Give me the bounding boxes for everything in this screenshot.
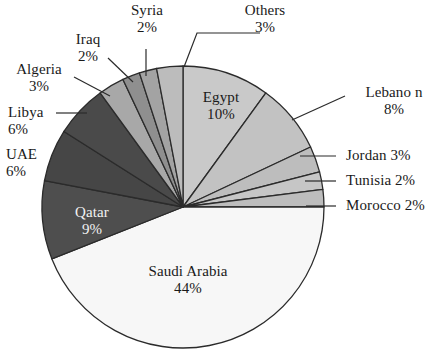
slice-label-lebanon-pct: 8% xyxy=(346,101,442,118)
slice-label-others: Others 3% xyxy=(226,2,304,36)
slice-label-egypt-pct: 10% xyxy=(186,106,256,123)
slice-label-uae: UAE 6% xyxy=(6,146,66,180)
slice-label-qatar: Qatar 9% xyxy=(56,204,128,238)
slice-label-lebanon-name: Lebano n xyxy=(365,84,422,100)
slice-label-jordan: Jordan 3% xyxy=(346,147,411,164)
slice-label-libya-name: Libya xyxy=(8,104,44,120)
slice-label-syria: Syria 2% xyxy=(112,2,182,36)
slice-label-qatar-name: Qatar xyxy=(75,204,109,220)
slice-label-libya-pct: 6% xyxy=(8,121,68,138)
slice-label-algeria: Algeria 3% xyxy=(6,61,72,95)
slice-label-egypt-name: Egypt xyxy=(203,89,239,105)
slice-label-uae-pct: 6% xyxy=(6,163,66,180)
slice-label-saudi-arabia-pct: 44% xyxy=(124,280,252,297)
slice-label-algeria-name: Algeria xyxy=(16,61,62,77)
leader-line-lebanon xyxy=(292,96,345,120)
slice-label-iraq: Iraq 2% xyxy=(62,31,114,65)
slice-label-saudi-arabia-name: Saudi Arabia xyxy=(148,263,227,279)
slice-label-iraq-name: Iraq xyxy=(76,31,101,47)
slice-label-morocco-name: Morocco 2% xyxy=(346,197,425,213)
slice-label-algeria-pct: 3% xyxy=(6,78,72,95)
slice-label-tunisia: Tunisia 2% xyxy=(346,172,415,189)
leader-line-algeria xyxy=(74,77,110,96)
slice-label-syria-pct: 2% xyxy=(112,19,182,36)
pie-chart-figure: Syria 2% Others 3% Iraq 2% Algeria 3% Li… xyxy=(0,0,446,356)
slice-label-tunisia-name: Tunisia 2% xyxy=(346,172,415,188)
leader-line-others xyxy=(184,33,260,67)
slice-label-lebanon: Lebano n 8% xyxy=(346,84,442,118)
slice-label-qatar-pct: 9% xyxy=(56,221,128,238)
slice-label-morocco: Morocco 2% xyxy=(346,197,425,214)
slice-label-egypt: Egypt 10% xyxy=(186,89,256,123)
slice-label-uae-name: UAE xyxy=(6,146,37,162)
slice-label-libya: Libya 6% xyxy=(8,104,68,138)
slice-label-syria-name: Syria xyxy=(131,2,163,18)
slice-label-saudi-arabia: Saudi Arabia 44% xyxy=(124,263,252,297)
slice-label-jordan-name: Jordan 3% xyxy=(346,147,411,163)
slice-label-others-pct: 3% xyxy=(226,19,304,36)
slice-label-others-name: Others xyxy=(245,2,286,18)
